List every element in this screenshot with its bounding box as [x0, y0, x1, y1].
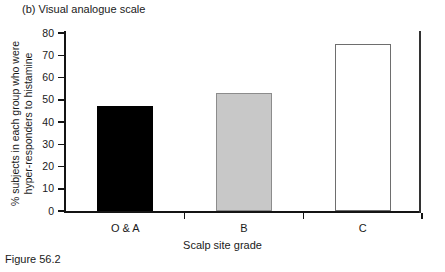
- y-axis-tick: [58, 210, 64, 212]
- y-axis-tick-label: 60: [42, 72, 54, 83]
- x-axis-title: Scalp site grade: [0, 239, 445, 251]
- y-axis-tick: [58, 99, 64, 101]
- x-axis-tick-label: B: [194, 222, 294, 234]
- y-axis-tick-label: 40: [42, 117, 54, 128]
- x-axis-tick: [421, 213, 423, 219]
- y-axis-tick: [58, 32, 64, 34]
- y-axis-title: % subjects in each group who were hyper-…: [9, 24, 34, 224]
- y-axis-tick-label: 70: [42, 50, 54, 61]
- y-axis-tick-label: 20: [42, 161, 54, 172]
- x-axis-line: [64, 211, 421, 213]
- bar-c: [335, 44, 391, 211]
- y-axis-tick: [58, 188, 64, 190]
- y-axis-tick-label: 0: [48, 206, 54, 217]
- y-axis-tick-label: 10: [42, 183, 54, 194]
- y-axis-tick-label: 80: [42, 28, 54, 39]
- x-axis-tick: [184, 213, 186, 219]
- x-axis-tick-label: O & A: [75, 222, 175, 234]
- bar-b: [216, 93, 272, 211]
- y-axis-tick: [58, 55, 64, 57]
- y-axis-tick: [58, 144, 64, 146]
- x-axis-tick-label: C: [313, 222, 413, 234]
- plot-area: [66, 33, 422, 211]
- y-axis-tick: [58, 166, 64, 168]
- y-axis-tick-label: 30: [42, 139, 54, 150]
- x-axis-tick: [303, 213, 305, 219]
- bar-o-and-a: [97, 106, 153, 211]
- y-axis-tick-label: 50: [42, 94, 54, 105]
- y-axis-tick: [58, 77, 64, 79]
- y-axis-tick: [58, 121, 64, 123]
- bar-chart: 01020304050607080 O & ABC % subjects in …: [0, 0, 445, 248]
- figure-caption: Figure 56.2: [5, 253, 61, 266]
- y-axis-title-line-1: % subjects in each group who were: [9, 24, 22, 224]
- y-axis-title-line-2: hyper-responders to histamine: [21, 24, 34, 224]
